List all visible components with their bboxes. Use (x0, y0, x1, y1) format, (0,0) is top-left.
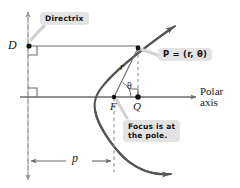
polar-axis-label: Polar axis (200, 86, 223, 108)
label-distance-p: p (72, 152, 78, 164)
leader-directrix (31, 26, 44, 40)
segment-radius-r (114, 48, 138, 97)
callout-directrix: Directrix (40, 12, 89, 25)
point-dot-p (136, 46, 141, 51)
conic-polar-diagram: D F Q r θ p Polar axis Directrix P = (r,… (0, 0, 240, 188)
right-angle-marker-origin (28, 88, 37, 97)
callout-focus-at-pole: Focus is at the pole. (123, 120, 180, 142)
label-angle-theta: θ (127, 81, 132, 91)
label-radius-r: r (120, 62, 124, 72)
point-dot-f (112, 95, 116, 99)
leader-focus (116, 99, 127, 118)
callout-focus-line2: the pole. (128, 131, 175, 140)
label-point-d: D (8, 39, 17, 51)
callout-point-p: P = (r, θ) (158, 48, 212, 61)
polar-axis-label-line2: axis (200, 97, 223, 108)
label-point-f: F (110, 101, 117, 112)
label-point-q: Q (133, 101, 141, 112)
point-dot-q (135, 94, 141, 100)
point-dot-d (26, 43, 31, 48)
callout-focus-line1: Focus is at (128, 122, 175, 131)
